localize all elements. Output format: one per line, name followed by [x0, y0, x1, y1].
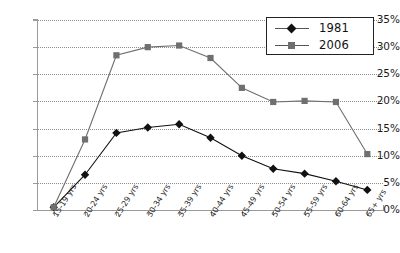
data-point-1981-65+ yrs — [363, 186, 371, 194]
legend-marker-square-icon — [275, 39, 309, 51]
data-point-2006-40-44 yrs — [207, 55, 213, 61]
data-point-2006-30-34 yrs — [145, 44, 151, 50]
data-point-1981-30-34 yrs — [144, 123, 152, 131]
data-point-1981-25-29 yrs — [112, 129, 120, 137]
legend-label-1981: 1981 — [319, 21, 349, 35]
data-point-2006-65+ yrs — [364, 151, 370, 157]
data-point-1981-60-64 yrs — [332, 177, 340, 185]
data-point-1981-45-49 yrs — [238, 152, 246, 160]
data-point-1981-35-39 yrs — [175, 120, 183, 128]
legend-marker-diamond-icon — [275, 22, 309, 34]
data-point-2006-60-64 yrs — [333, 99, 339, 105]
data-point-2006-20-24 yrs — [82, 136, 88, 142]
legend-label-2006: 2006 — [319, 38, 349, 52]
legend-item-1981[interactable]: 1981 — [275, 20, 349, 36]
data-point-2006-15-19 yrs — [51, 204, 57, 210]
data-point-1981-55-59 yrs — [300, 169, 308, 177]
data-point-2006-50-54 yrs — [270, 99, 276, 105]
data-point-2006-55-59 yrs — [301, 98, 307, 104]
data-point-2006-25-29 yrs — [113, 52, 119, 58]
legend-item-2006[interactable]: 2006 — [275, 37, 349, 53]
legend: 1981 2006 — [266, 17, 374, 55]
data-point-2006-35-39 yrs — [176, 42, 182, 48]
data-point-1981-50-54 yrs — [269, 165, 277, 173]
chart-container: 0%5%10%15%20%25%30%35% 15-19 yrs20-24 yr… — [0, 0, 400, 253]
data-point-1981-40-44 yrs — [206, 134, 214, 142]
series-line-2006 — [54, 46, 368, 208]
data-point-2006-45-49 yrs — [239, 85, 245, 91]
